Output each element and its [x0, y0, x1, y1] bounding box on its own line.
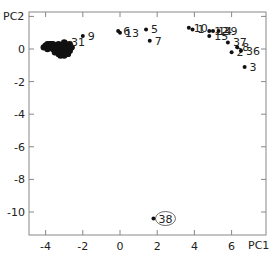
data-point [118, 31, 122, 35]
point-label: 7 [155, 35, 162, 48]
cluster-point [61, 52, 67, 58]
y-tick-label: -4 [14, 108, 25, 121]
point-cluster [41, 39, 75, 58]
labeled-points: 9316135710112143915372836338 [64, 22, 260, 226]
data-point [235, 45, 239, 49]
y-tick-label: 0 [18, 43, 25, 56]
data-point [191, 27, 195, 31]
point-label: 36 [246, 45, 260, 58]
point-label: 38 [158, 213, 172, 226]
point-label: 3 [250, 61, 257, 74]
point-label: 13 [125, 27, 139, 40]
cluster-point [55, 46, 61, 52]
point-label: 31 [71, 36, 85, 49]
x-tick-label: 6 [228, 240, 235, 253]
data-point [207, 29, 211, 33]
x-tick-label: 2 [154, 240, 161, 253]
data-point [144, 27, 148, 31]
y-axis-title: PC2 [3, 10, 24, 23]
y-tick-label: -8 [14, 173, 25, 186]
data-point [148, 39, 152, 43]
y-tick-label: -10 [7, 206, 25, 219]
x-tick-label: 0 [117, 240, 124, 253]
data-point [239, 49, 243, 53]
scatter-plot: -4-20246 0-2-4-6-8-10 931613571011214391… [0, 0, 272, 257]
x-tick-label: 4 [191, 240, 198, 253]
point-label: 15 [214, 30, 228, 43]
data-point [207, 34, 211, 38]
point-label: 1 [198, 23, 205, 36]
y-tick-label: -6 [14, 141, 25, 154]
data-point [226, 40, 230, 44]
x-axis-title: PC1 [248, 239, 269, 252]
data-point [243, 65, 247, 69]
x-tick-label: -2 [77, 240, 88, 253]
cluster-point [44, 46, 50, 52]
data-point [230, 50, 234, 54]
data-point [64, 40, 68, 44]
point-label: 9 [88, 30, 95, 43]
y-tick-label: -2 [14, 76, 25, 89]
data-point [151, 217, 155, 221]
data-point [187, 26, 191, 30]
x-tick-label: -4 [40, 240, 51, 253]
